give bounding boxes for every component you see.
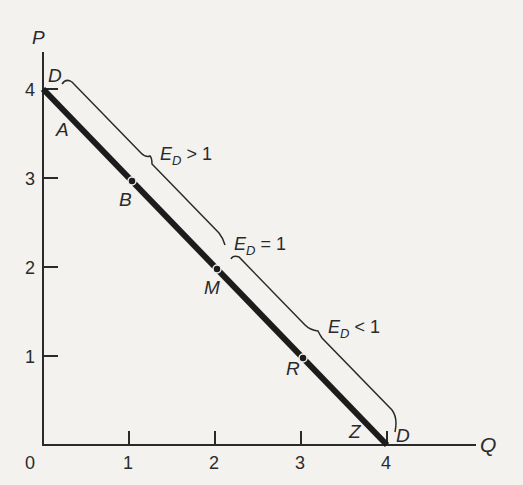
point-m-label: M <box>204 277 220 298</box>
origin-label: 0 <box>25 453 35 473</box>
point-m-marker <box>213 265 221 273</box>
x-tick-label-3: 3 <box>295 453 305 473</box>
y-axis-label: P <box>32 27 45 48</box>
point-a-label: A <box>55 119 69 140</box>
bracket-inelastic <box>231 256 396 432</box>
elasticity-label-less: ED < 1 <box>328 317 380 341</box>
y-tick-label-2: 2 <box>25 258 35 278</box>
x-tick-label-2: 2 <box>209 453 219 473</box>
y-tick-label-3: 3 <box>25 169 35 189</box>
elasticity-label-greater: ED > 1 <box>160 144 212 168</box>
x-tick-label-1: 1 <box>123 453 133 473</box>
point-r-marker <box>299 354 307 362</box>
demand-label-top: D <box>48 65 62 86</box>
point-r-label: R <box>286 358 300 379</box>
point-b-marker <box>128 177 136 185</box>
point-z-label: Z <box>348 421 362 442</box>
linear-demand-elasticity-diagram: P Q 0 1 2 3 4 4 3 2 1 D D A B M R Z <box>0 0 523 485</box>
elasticity-label-unit: ED = 1 <box>234 234 286 258</box>
y-tick-label-4: 4 <box>25 80 35 100</box>
elasticity-brackets <box>62 80 396 432</box>
y-tick-label-1: 1 <box>25 347 35 367</box>
demand-label-bottom: D <box>396 425 410 446</box>
x-axis-label: Q <box>480 433 496 456</box>
x-tick-label-4: 4 <box>381 453 391 473</box>
point-b-label: B <box>119 189 132 210</box>
